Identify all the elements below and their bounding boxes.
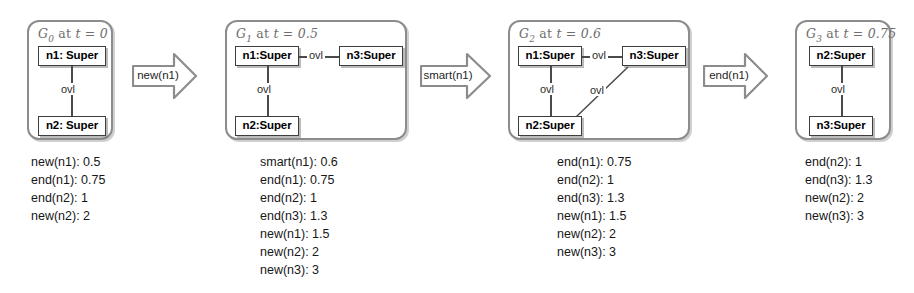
event-row: new(n2): 2 (557, 225, 631, 243)
event-row: end(n1): 0.75 (557, 153, 631, 171)
node-n3-g3: n3:Super (809, 116, 873, 136)
event-row: new(n2): 2 (31, 207, 105, 225)
event-row: new(n3): 3 (805, 207, 872, 225)
edge-label-ovl-n1-n3-g1: ovl (307, 49, 325, 61)
event-list-g2: end(n1): 0.75 end(n2): 1 end(n3): 1.3 ne… (557, 153, 631, 261)
event-row: end(n1): 0.75 (260, 171, 338, 189)
graph-title-text-g0: G0 at t = 0 (38, 26, 108, 41)
node-n1-g1: n1:Super (235, 46, 299, 66)
event-row: smart(n1): 0.6 (260, 153, 338, 171)
event-row: end(n2): 1 (557, 171, 631, 189)
edge-label-ovl-n1-n2-g1: ovl (255, 83, 273, 95)
node-n2-g3: n2:Super (809, 46, 873, 66)
edge-label-ovl-n2-n3-g2: ovl (588, 84, 606, 96)
node-n2-g2: n2:Super (518, 116, 582, 136)
graph-title-g1: G1 at t = 0.5 (236, 26, 318, 44)
figure-canvas: G0 at t = 0 n1: Super ovl n2: Super new(… (0, 0, 914, 293)
event-row: end(n2): 1 (31, 189, 105, 207)
edge-label-ovl-g3: ovl (829, 83, 847, 95)
graph-title-g0: G0 at t = 0 (38, 26, 108, 44)
node-n1-g0: n1: Super (38, 46, 106, 66)
event-row: new(n1): 0.5 (31, 153, 105, 171)
event-row: new(n3): 3 (557, 243, 631, 261)
graph-title-text-g3: G3 at t = 0.75 (806, 26, 896, 41)
event-row: end(n2): 1 (805, 153, 872, 171)
graph-box-g2: G2 at t = 0.6 n1:Super ovl n3:Super ovl … (508, 20, 690, 140)
graph-box-g1: G1 at t = 0.5 n1:Super ovl n3:Super ovl … (225, 20, 407, 140)
graph-title-text-g1: G1 at t = 0.5 (236, 26, 318, 41)
transition-label-end-n1: end(n1) (707, 69, 751, 81)
graph-box-g0: G0 at t = 0 n1: Super ovl n2: Super (27, 20, 113, 140)
event-list-g3: end(n2): 1 end(n3): 1.3 new(n2): 2 new(n… (805, 153, 872, 225)
event-row: new(n1): 1.5 (557, 207, 631, 225)
event-row: end(n1): 0.75 (31, 171, 105, 189)
event-row: new(n1): 1.5 (260, 225, 338, 243)
event-list-g1: smart(n1): 0.6 end(n1): 0.75 end(n2): 1 … (260, 153, 338, 279)
event-row: new(n3): 3 (260, 261, 338, 279)
event-row: new(n2): 2 (805, 189, 872, 207)
event-row: end(n3): 1.3 (260, 207, 338, 225)
event-row: end(n3): 1.3 (557, 189, 631, 207)
event-row: end(n2): 1 (260, 189, 338, 207)
node-n2-g0: n2: Super (38, 116, 106, 136)
graph-box-g3: G3 at t = 0.75 n2:Super ovl n3:Super (795, 20, 891, 140)
event-row: new(n2): 2 (260, 243, 338, 261)
transition-label-smart-n1: smart(n1) (423, 69, 473, 81)
graph-title-g3: G3 at t = 0.75 (806, 26, 896, 44)
node-n3-g1: n3:Super (339, 46, 403, 66)
transition-label-new-n1: new(n1) (136, 69, 180, 81)
edge-label-ovl-g0: ovl (59, 83, 77, 95)
event-row: end(n3): 1.3 (805, 171, 872, 189)
event-list-g0: new(n1): 0.5 end(n1): 0.75 end(n2): 1 ne… (31, 153, 105, 225)
node-n2-g1: n2:Super (235, 116, 299, 136)
